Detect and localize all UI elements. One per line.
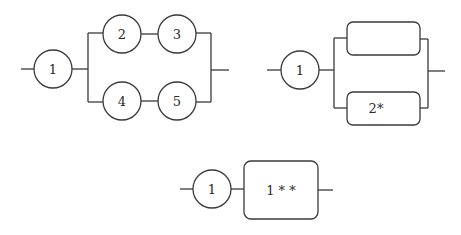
component-label: 4 bbox=[118, 94, 126, 109]
component-label: 1 bbox=[49, 62, 57, 77]
component-label: 2 bbox=[118, 27, 126, 42]
diagram-b: 1 2* bbox=[267, 22, 445, 125]
reliability-block-diagrams: 1 2 3 4 5 1 bbox=[0, 0, 461, 235]
component-label: 3 bbox=[173, 27, 181, 42]
component-1: 1 bbox=[281, 51, 319, 89]
block-label: 1 * * bbox=[266, 183, 296, 198]
component-label: 1 bbox=[296, 63, 304, 78]
block-1-double-star: 1 * * bbox=[244, 161, 318, 219]
block-label: 2* bbox=[369, 101, 384, 116]
component-3: 3 bbox=[158, 15, 196, 53]
component-label: 5 bbox=[173, 94, 181, 109]
component-5: 5 bbox=[158, 82, 196, 120]
component-2: 2 bbox=[103, 15, 141, 53]
component-4: 4 bbox=[103, 82, 141, 120]
component-1: 1 bbox=[34, 50, 72, 88]
block-empty bbox=[347, 22, 420, 55]
block-2-star: 2* bbox=[347, 92, 420, 125]
diagram-a: 1 2 3 4 5 bbox=[21, 15, 229, 120]
diagram-c: 1 1 * * bbox=[180, 161, 333, 219]
component-label: 1 bbox=[208, 182, 216, 197]
component-1: 1 bbox=[193, 170, 231, 208]
